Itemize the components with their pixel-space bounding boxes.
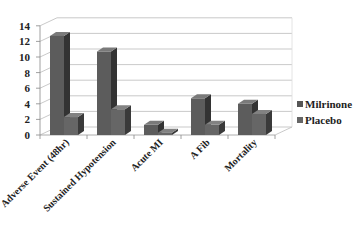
bars	[50, 32, 272, 135]
bar-chart-3d: 02468101214 Adverse Event (48hr)Sustaine…	[0, 0, 358, 228]
legend-swatch	[297, 117, 303, 123]
y-tick-label: 10	[19, 51, 31, 63]
y-tick-label: 4	[25, 98, 31, 110]
y-tick-label: 6	[25, 82, 31, 94]
x-category-label: Acute MI	[128, 137, 165, 174]
legend-label: Placebo	[305, 114, 342, 126]
legend: MilrinonePlacebo	[297, 98, 352, 126]
y-tick-label: 2	[25, 113, 31, 125]
y-tick-label: 0	[25, 129, 31, 141]
bar	[252, 110, 272, 135]
x-category-label: A Fib	[187, 136, 212, 161]
x-category-label: Mortality	[222, 137, 259, 174]
gridline-side	[40, 18, 57, 26]
legend-swatch	[297, 101, 303, 107]
legend-label: Milrinone	[305, 98, 352, 110]
bar	[64, 113, 84, 135]
bar	[111, 105, 131, 135]
bar	[205, 121, 225, 135]
y-tick-label: 12	[19, 35, 31, 47]
x-axis: Adverse Event (48hr)Sustained Hypotensio…	[0, 135, 275, 214]
y-tick-label: 8	[25, 67, 31, 79]
y-tick-label: 14	[19, 20, 31, 32]
